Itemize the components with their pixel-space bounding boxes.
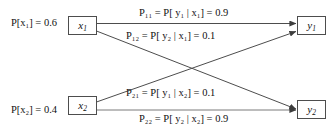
node-label-y1: y1	[307, 20, 316, 31]
edge-label-P12: P₁₂ = P[ y₂ | x₁] = 0.1	[126, 31, 215, 42]
node-label-y2: y2	[307, 104, 316, 115]
edge-label-P11: P₁₁ = P[ y₁ | x₁] = 0.9	[139, 8, 228, 19]
node-box-y1[interactable]: y1	[297, 16, 326, 35]
prior-label-x2: P[x₂] = 0.4	[11, 105, 57, 116]
node-box-x2[interactable]: x2	[68, 96, 97, 115]
node-label-x1: x1	[78, 20, 87, 31]
edge-label-P22: P₂₂ = P[ y₂ | x₂] = 0.9	[139, 114, 228, 125]
node-box-x1[interactable]: x1	[68, 16, 97, 35]
edge-label-P21: P₂₁ = P[ y₁ | x₂] = 0.1	[126, 88, 215, 99]
channel-diagram: P[x₁] = 0.6 P[x₂] = 0.4 x1 x2 y1 y2 P₁₁ …	[0, 0, 332, 133]
prior-label-x1: P[x₁] = 0.6	[11, 18, 57, 29]
node-box-y2[interactable]: y2	[297, 100, 326, 119]
node-label-x2: x2	[78, 100, 87, 111]
